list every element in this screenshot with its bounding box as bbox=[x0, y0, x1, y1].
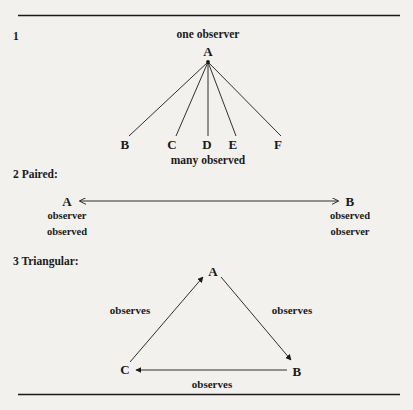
triangle-edge-label-left: observes bbox=[110, 305, 150, 316]
triangle-node-a: A bbox=[208, 265, 218, 278]
triangle-node-b: B bbox=[293, 365, 302, 378]
paired-node-a-role-1: observer bbox=[47, 211, 86, 222]
figure-page: 1 one observer A B C D E F many observed… bbox=[0, 0, 413, 410]
paired-node-a: A bbox=[62, 195, 72, 208]
fan-node-f: F bbox=[274, 138, 282, 151]
triangle-edge-label-bottom: observes bbox=[192, 379, 232, 390]
paired-node-b-role-1: observed bbox=[330, 211, 370, 222]
fan-edge-a-f bbox=[208, 62, 281, 136]
fan-apex-dot bbox=[206, 60, 210, 64]
section-1-heading: 1 bbox=[13, 31, 19, 43]
fan-node-a: A bbox=[203, 45, 213, 58]
fan-node-e: E bbox=[229, 138, 238, 151]
triangle-edge-c-to-a bbox=[130, 277, 203, 362]
fan-edges-group bbox=[129, 60, 281, 136]
one-observer-caption: one observer bbox=[177, 29, 240, 41]
section-3-heading: 3 Triangular: bbox=[13, 256, 79, 268]
fan-edge-a-e bbox=[208, 62, 236, 136]
triangle-edge-label-right: observes bbox=[272, 305, 312, 316]
many-observed-caption: many observed bbox=[171, 155, 245, 167]
fan-edge-a-b bbox=[129, 62, 208, 136]
fan-node-c: C bbox=[167, 138, 177, 151]
triangle-node-c: C bbox=[120, 363, 130, 376]
triangle-edge-a-to-b bbox=[221, 277, 291, 360]
fan-edge-a-c bbox=[176, 62, 208, 136]
fan-node-b: B bbox=[121, 138, 130, 151]
paired-node-a-role-2: observed bbox=[47, 227, 87, 238]
paired-node-b: B bbox=[346, 195, 355, 208]
fan-node-d: D bbox=[202, 138, 212, 151]
paired-node-b-role-2: observer bbox=[330, 227, 369, 238]
section-2-heading: 2 Paired: bbox=[13, 169, 58, 181]
